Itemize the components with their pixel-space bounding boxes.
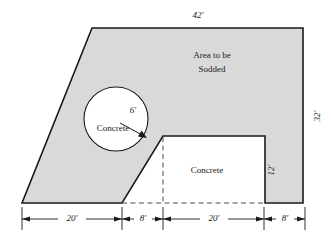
circle-radius-label: 6′ [130,105,138,115]
rect-concrete-label: Concrete [191,165,223,175]
circle-concrete-label: Concrete [97,123,129,133]
top-width-dimension-label: 42′ [193,10,205,20]
bottom-dimension-label-1: 20′ [67,213,79,223]
sodded-area-label-line1: Area to be [193,50,230,60]
bottom-dimension-label-3: 20′ [209,213,221,223]
bottom-dimension-label-4: 8′ [282,213,290,223]
notch-height-dimension-label: 12′ [266,163,276,175]
bottom-dimension-label-2: 8′ [140,213,148,223]
sodded-area-diagram: Area to be Sodded Concrete 6′ Concrete 4… [0,0,331,240]
figure-container: Area to be Sodded Concrete 6′ Concrete 4… [0,0,331,240]
right-height-dimension-label: 32′ [312,109,322,122]
circular-concrete-region [84,87,148,151]
sodded-area-label-line2: Sodded [199,64,227,74]
